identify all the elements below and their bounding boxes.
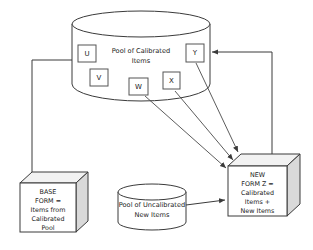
- base-form-label-line4: Calibrated: [31, 215, 64, 223]
- connector-new-form-to-calibrated-pool: [212, 52, 272, 158]
- item-u-label: U: [84, 50, 89, 58]
- connector-pool-to-base-form: [32, 60, 78, 178]
- item-x-label: X: [169, 77, 174, 85]
- new-form-label-line4: Items +: [245, 198, 270, 206]
- connector-item-x-to-new-form: [175, 91, 233, 160]
- new-form-label-line3: Calibrated: [241, 189, 274, 197]
- item-v[interactable]: V: [90, 69, 108, 86]
- item-u[interactable]: U: [78, 45, 96, 62]
- diagram-svg: Pool of Calibrated Items U V W X: [0, 0, 313, 250]
- new-form-label-line5: New Items: [241, 207, 276, 215]
- base-form-label-line1: BASE: [40, 188, 57, 196]
- connector-item-w-to-new-form: [145, 96, 226, 168]
- calibrated-pool-label-line1: Pool of Calibrated: [112, 47, 170, 55]
- uncalibrated-pool-label-line1: Pool of Uncalibrated: [119, 201, 185, 209]
- base-form-label-line2: FORM =: [35, 197, 61, 205]
- item-w[interactable]: W: [129, 78, 148, 95]
- uncalibrated-pool-label-line2: New Items: [135, 211, 170, 219]
- calibrated-pool-label-line2: Items: [132, 57, 151, 65]
- item-v-label: V: [97, 74, 102, 82]
- item-y[interactable]: Y: [186, 44, 204, 62]
- connector-item-y-to-new-form: [196, 63, 238, 152]
- base-form-label-line3: Items from: [31, 206, 66, 214]
- base-form-label-line5: Pool: [41, 224, 54, 232]
- item-w-label: W: [135, 83, 142, 91]
- new-form-label-line2: FORM Z =: [241, 180, 273, 188]
- item-x[interactable]: X: [163, 72, 180, 89]
- node-new-form: NEW FORM Z = Calibrated Items + New Item…: [228, 154, 300, 216]
- node-uncalibrated-pool: Pool of Uncalibrated New Items: [118, 184, 186, 230]
- new-form-label-line1: NEW: [250, 171, 266, 179]
- item-y-label: Y: [192, 49, 198, 57]
- connector-uncalibrated-pool-to-new-form: [186, 200, 225, 205]
- diagram-canvas: Pool of Calibrated Items U V W X: [0, 0, 313, 250]
- node-base-form: BASE FORM = Items from Calibrated Pool: [20, 172, 88, 232]
